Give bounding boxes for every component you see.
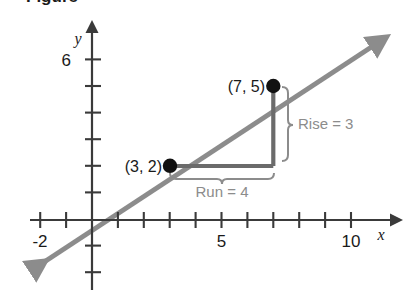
run-annotation-label: Run = 4: [196, 183, 249, 200]
point-label-7-5: (7, 5): [228, 78, 265, 95]
x-tick-label-10: 10: [342, 232, 361, 251]
x-tick-label-5: 5: [217, 232, 226, 251]
slope-graph: x y -2 5 10 6 Rise = 3 Run = 4: [0, 0, 406, 300]
rise-annotation-label: Rise = 3: [298, 115, 353, 132]
x-axis-label: x: [376, 226, 384, 243]
slope-triangle: [170, 86, 273, 166]
y-axis-label: y: [72, 30, 82, 48]
point-label-3-2: (3, 2): [125, 158, 162, 175]
point-3-2[interactable]: [163, 159, 177, 173]
y-tick-label-6: 6: [62, 51, 71, 70]
line-segment: [35, 44, 376, 268]
plotted-line: [35, 44, 376, 268]
point-7-5[interactable]: [266, 79, 280, 93]
figure-root: Figure: [0, 0, 406, 300]
x-tick-label-minus2: -2: [32, 232, 47, 251]
